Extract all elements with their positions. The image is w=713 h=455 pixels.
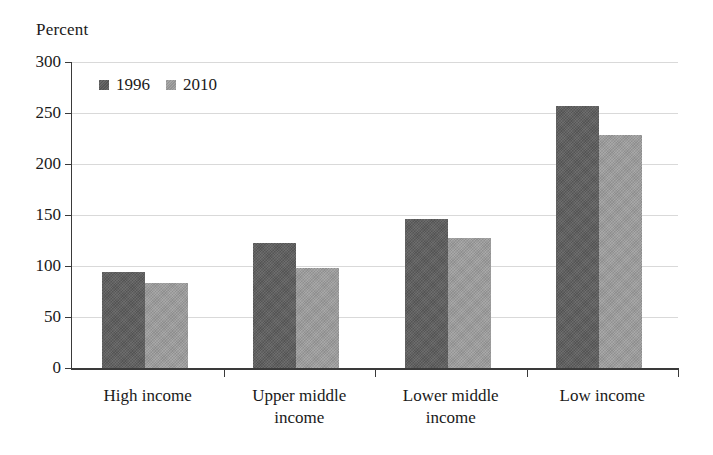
legend-swatch-icon [166, 80, 176, 90]
y-axis-tick [65, 113, 72, 114]
y-axis-tick [65, 62, 72, 63]
y-axis-tick [65, 164, 72, 165]
legend-swatch-icon [99, 80, 109, 90]
legend-item-2010[interactable]: 2010 [166, 76, 217, 93]
x-axis-tick [527, 369, 528, 377]
x-axis-category-label: Upper middle income [224, 385, 376, 429]
y-axis-tick-label: 200 [17, 155, 61, 172]
x-axis-category-label: Lower middle income [375, 385, 527, 429]
x-axis-category-label: High income [72, 385, 224, 407]
y-axis-tick-label: 100 [17, 257, 61, 274]
y-axis-tick [65, 368, 72, 369]
gridline [72, 62, 678, 63]
bar-2010-3 [599, 135, 642, 368]
legend-label: 1996 [116, 76, 150, 93]
bar-2010-2 [448, 238, 491, 368]
y-axis-tick-label: 300 [17, 53, 61, 70]
y-axis-tick-label: 250 [17, 104, 61, 121]
bar-1996-2 [405, 219, 448, 368]
y-axis-tick [65, 317, 72, 318]
legend-label: 2010 [183, 76, 217, 93]
y-axis-tick [65, 215, 72, 216]
x-axis-category-label: Low income [527, 385, 679, 407]
bar-chart: Percent 050100150200250300 High incomeUp… [0, 0, 713, 455]
legend-item-1996[interactable]: 1996 [99, 76, 150, 93]
x-axis-tick [224, 369, 225, 377]
y-axis-tick-label: 150 [17, 206, 61, 223]
bar-1996-1 [253, 243, 296, 368]
y-axis-tick [65, 266, 72, 267]
x-axis-tick [678, 369, 679, 377]
bar-2010-0 [145, 283, 188, 368]
y-axis-tick-label: 0 [17, 359, 61, 376]
y-axis-title: Percent [36, 20, 88, 40]
bar-1996-3 [556, 106, 599, 368]
chart-legend: 19962010 [99, 76, 217, 93]
plot-area [72, 62, 678, 368]
bar-1996-0 [102, 272, 145, 368]
x-axis-tick [375, 369, 376, 377]
bar-2010-1 [296, 268, 339, 368]
y-axis-tick-label: 50 [17, 308, 61, 325]
